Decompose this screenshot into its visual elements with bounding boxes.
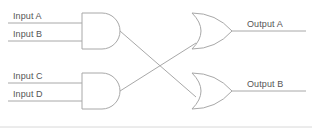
or-gate-top (192, 13, 232, 49)
logic-circuit-diagram: Input A Input B Input C Input D Output A… (0, 0, 312, 130)
label-output-b: Output B (247, 79, 283, 90)
and-gate-bottom (82, 73, 120, 109)
wire-and-top-to-or-bottom (120, 31, 196, 97)
label-input-d: Input D (13, 89, 43, 100)
or-gate-bottom (192, 73, 232, 109)
label-input-b: Input B (13, 29, 42, 40)
label-output-a: Output A (247, 19, 283, 30)
label-input-a: Input A (13, 11, 42, 22)
label-input-c: Input C (13, 71, 43, 82)
wire-and-bottom-to-or-top (120, 43, 196, 91)
and-gate-top (82, 13, 120, 49)
